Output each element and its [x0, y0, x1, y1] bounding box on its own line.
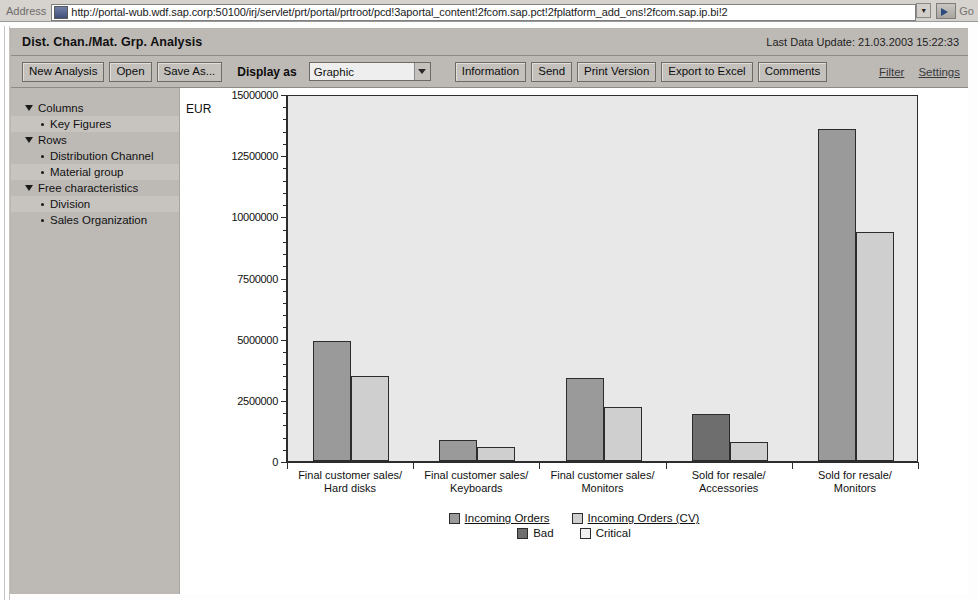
go-button[interactable]: Go: [932, 3, 978, 19]
x-axis-category-label: Final customer sales/Monitors: [539, 469, 665, 495]
legend-item-incoming-orders[interactable]: Incoming Orders: [449, 512, 550, 524]
x-axis-category-label: Sold for resale/Monitors: [792, 469, 918, 495]
save-as-button[interactable]: Save As...: [157, 62, 223, 82]
bullet-icon: [41, 123, 44, 126]
x-axis-category-line: Final customer sales/: [287, 469, 413, 482]
bar[interactable]: [856, 232, 894, 461]
settings-link[interactable]: Settings: [918, 66, 960, 78]
go-arrow-icon: [936, 3, 956, 19]
x-axis-category-label: Sold for resale/Accessories: [666, 469, 792, 495]
new-analysis-button[interactable]: New Analysis: [22, 62, 104, 82]
x-axis-category-label: Final customer sales/Hard disks: [287, 469, 413, 495]
toolbar: New Analysis Open Save As... Display as …: [11, 56, 968, 88]
last-data-update: Last Data Update: 21.03.2003 15:22:33: [766, 36, 959, 48]
nav-item-label: Sales Organization: [50, 214, 147, 226]
export-to-excel-button[interactable]: Export to Excel: [661, 62, 752, 82]
nav-item-distribution-channel[interactable]: Distribution Channel: [11, 148, 179, 164]
bar[interactable]: [692, 414, 730, 461]
address-label: Address: [0, 5, 51, 17]
x-axis-tick: [792, 462, 793, 469]
x-axis-category-line: Sold for resale/: [666, 469, 792, 482]
legend-color-swatch: [580, 528, 591, 539]
comments-button[interactable]: Comments: [758, 62, 828, 82]
x-axis-category-label: Final customer sales/Keyboards: [413, 469, 539, 495]
chevron-down-icon[interactable]: [414, 63, 430, 80]
chart-y-axis: 0250000050000007500000100000001250000015…: [180, 88, 287, 470]
bar[interactable]: [313, 341, 351, 461]
x-axis-category-line: Hard disks: [287, 482, 413, 495]
legend-label[interactable]: Incoming Orders: [465, 512, 550, 524]
legend-item-incoming-orders-cv[interactable]: Incoming Orders (CV): [572, 512, 700, 524]
nav-group-rows[interactable]: Rows: [11, 132, 179, 148]
x-axis-category-line: Final customer sales/: [413, 469, 539, 482]
triangle-down-icon[interactable]: [25, 137, 33, 143]
legend-item-critical: Critical: [580, 527, 631, 539]
display-as-label: Display as: [237, 65, 296, 79]
open-button[interactable]: Open: [109, 62, 151, 82]
browser-address-bar: Address http://portal-wub.wdf.sap.corp:5…: [0, 0, 978, 22]
x-axis-tick: [918, 462, 919, 469]
bar[interactable]: [477, 447, 515, 461]
nav-item-sales-organization[interactable]: Sales Organization: [11, 212, 179, 228]
nav-group-columns[interactable]: Columns: [11, 100, 179, 116]
address-input[interactable]: http://portal-wub.wdf.sap.corp:50100/irj…: [51, 4, 916, 21]
navigation-pane: ColumnsKey FiguresRowsDistribution Chann…: [11, 88, 180, 594]
bar[interactable]: [730, 442, 768, 461]
bar[interactable]: [604, 407, 642, 461]
legend-label: Critical: [596, 527, 631, 539]
print-version-button[interactable]: Print Version: [577, 62, 656, 82]
x-axis-category-line: Accessories: [666, 482, 792, 495]
y-axis-tick-label: 7500000: [237, 273, 278, 285]
legend-color-swatch: [449, 513, 460, 524]
window-left-gutter: [0, 26, 10, 600]
display-as-select[interactable]: Graphic: [309, 62, 431, 81]
x-axis-category-line: Final customer sales/: [539, 469, 665, 482]
nav-group-label: Rows: [38, 134, 67, 146]
go-label: Go: [959, 5, 974, 17]
nav-item-division[interactable]: Division: [11, 196, 179, 212]
nav-group-label: Free characteristics: [38, 182, 138, 194]
legend-color-swatch: [572, 513, 583, 524]
legend-color-swatch: [517, 528, 528, 539]
send-button[interactable]: Send: [531, 62, 572, 82]
nav-item-key-figures[interactable]: Key Figures: [11, 116, 179, 132]
address-url-text: http://portal-wub.wdf.sap.corp:50100/irj…: [71, 6, 727, 18]
screen: Address http://portal-wub.wdf.sap.corp:5…: [0, 0, 978, 600]
legend-row: BadCritical: [517, 527, 631, 539]
filter-link[interactable]: Filter: [879, 66, 905, 78]
legend-label[interactable]: Incoming Orders (CV): [588, 512, 700, 524]
x-axis-category-line: Monitors: [792, 482, 918, 495]
nav-group-label: Columns: [38, 102, 83, 114]
nav-item-label: Key Figures: [50, 118, 111, 130]
legend-row: Incoming OrdersIncoming Orders (CV): [449, 512, 700, 524]
page-favicon-icon: [54, 6, 68, 19]
address-dropdown-icon[interactable]: ▼: [916, 3, 931, 18]
display-as-value: Graphic: [314, 66, 354, 78]
x-axis-tick: [539, 462, 540, 469]
bar[interactable]: [818, 129, 856, 461]
chart-legend: Incoming OrdersIncoming Orders (CV)BadCr…: [180, 512, 968, 539]
application-window: Dist. Chan./Mat. Grp. Analysis Last Data…: [10, 28, 968, 594]
chart-container: EUR 025000005000000750000010000000125000…: [180, 88, 968, 594]
bullet-icon: [41, 171, 44, 174]
information-button[interactable]: Information: [455, 62, 527, 82]
x-axis-category-line: Keyboards: [413, 482, 539, 495]
y-axis-tick-label: 0: [272, 456, 278, 468]
bullet-icon: [41, 155, 44, 158]
nav-item-label: Material group: [50, 166, 124, 178]
y-axis-tick-label: 10000000: [231, 211, 278, 223]
nav-group-free-characteristics[interactable]: Free characteristics: [11, 180, 179, 196]
plot-area: [287, 95, 918, 462]
y-axis-tick-label: 2500000: [237, 395, 278, 407]
legend-label: Bad: [533, 527, 553, 539]
bar[interactable]: [351, 376, 389, 461]
bar[interactable]: [566, 378, 604, 461]
triangle-down-icon[interactable]: [25, 105, 33, 111]
y-axis-tick-label: 5000000: [237, 334, 278, 346]
bullet-icon: [41, 219, 44, 222]
app-title-bar: Dist. Chan./Mat. Grp. Analysis Last Data…: [11, 29, 968, 56]
nav-item-material-group[interactable]: Material group: [11, 164, 179, 180]
triangle-down-icon[interactable]: [25, 185, 33, 191]
x-axis-category-line: Monitors: [539, 482, 665, 495]
bar[interactable]: [439, 440, 477, 461]
